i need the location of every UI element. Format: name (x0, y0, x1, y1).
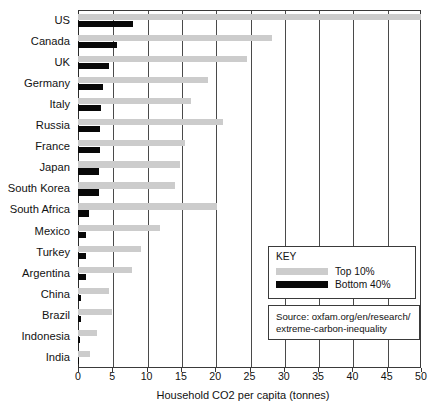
source-line-2: extreme-carbon-inequality (276, 323, 413, 335)
x-tick-mark-45 (387, 368, 388, 372)
category-label-south-africa: South Africa (10, 204, 70, 215)
x-tick-mark-40 (352, 368, 353, 372)
bar-bottom40-italy (78, 105, 101, 111)
category-label-indonesia: Indonesia (21, 331, 70, 342)
category-label-south-korea: South Korea (8, 183, 70, 194)
co2-inequality-bar-chart: USCanadaUKGermanyItalyRussiaFranceJapanS… (0, 0, 434, 412)
x-tick-mark-25 (250, 368, 251, 372)
bar-bottom40-south-africa (78, 210, 89, 216)
category-label-india: India (46, 352, 70, 363)
category-label-canada: Canada (31, 36, 70, 47)
bar-bottom40-france (78, 147, 100, 153)
category-label-france: France (35, 141, 70, 152)
bar-top10-south-korea (78, 182, 175, 188)
category-label-japan: Japan (40, 162, 70, 173)
bar-bottom40-us (78, 21, 133, 27)
bar-bottom40-india (78, 358, 79, 364)
category-label-mexico: Mexico (35, 226, 70, 237)
legend-swatch-top10 (276, 268, 328, 275)
source-line-1: Source: oxfam.org/en/research/ (276, 311, 413, 323)
bar-top10-italy (78, 98, 191, 104)
bar-bottom40-turkey (78, 253, 86, 259)
bar-top10-russia (78, 119, 223, 125)
category-label-us: US (54, 15, 70, 26)
bar-bottom40-argentina (78, 274, 86, 280)
bar-top10-brazil (78, 309, 112, 315)
bar-bottom40-mexico (78, 232, 86, 238)
bar-top10-uk (78, 56, 247, 62)
legend-label-bottom40: Bottom 40% (335, 279, 391, 290)
source-annotation: Source: oxfam.org/en/research/ extreme-c… (268, 305, 420, 340)
bar-bottom40-brazil (78, 316, 81, 322)
x-axis-title-text: Household CO2 per capita (tonnes) (156, 389, 329, 401)
category-label-brazil: Brazil (42, 310, 70, 321)
bar-bottom40-canada (78, 42, 117, 48)
bar-top10-turkey (78, 246, 141, 252)
bar-bottom40-germany (78, 84, 103, 90)
x-tick-mark-15 (181, 368, 182, 372)
x-axis-title: Household CO2 per capita (tonnes) (0, 389, 434, 401)
bar-top10-us (78, 14, 421, 20)
x-tick-mark-10 (147, 368, 148, 372)
bar-top10-france (78, 140, 185, 146)
category-label-uk: UK (54, 57, 70, 68)
category-label-china: China (41, 289, 70, 300)
bar-bottom40-china (78, 295, 81, 301)
legend-swatch-bottom40 (276, 281, 328, 288)
bar-top10-mexico (78, 225, 160, 231)
x-tick-mark-20 (215, 368, 216, 372)
legend-label-top10: Top 10% (335, 266, 375, 277)
legend-item-bottom40: Bottom 40% (276, 279, 408, 290)
legend-item-top10: Top 10% (276, 266, 408, 277)
category-axis-labels: USCanadaUKGermanyItalyRussiaFranceJapanS… (0, 10, 74, 368)
category-label-germany: Germany (24, 78, 70, 89)
category-label-russia: Russia (36, 120, 70, 131)
bar-top10-china (78, 288, 109, 294)
bar-top10-indonesia (78, 330, 97, 336)
bar-top10-argentina (78, 267, 132, 273)
x-tick-mark-0 (78, 368, 79, 372)
x-tick-mark-35 (318, 368, 319, 372)
bar-top10-india (78, 351, 90, 357)
category-label-turkey: Turkey (36, 247, 70, 258)
bar-bottom40-south-korea (78, 189, 99, 195)
bar-bottom40-japan (78, 168, 99, 174)
legend-title: KEY (276, 251, 408, 263)
category-label-italy: Italy (49, 99, 70, 110)
x-tick-mark-30 (284, 368, 285, 372)
bar-top10-germany (78, 77, 208, 83)
bar-top10-south-africa (78, 203, 217, 209)
bar-top10-japan (78, 161, 180, 167)
legend: KEY Top 10% Bottom 40% (268, 246, 416, 299)
x-tick-mark-5 (112, 368, 113, 372)
category-label-argentina: Argentina (22, 268, 70, 279)
bar-bottom40-indonesia (78, 337, 80, 343)
x-axis-tick-labels: 05101520253035404550 (0, 370, 434, 386)
bar-top10-canada (78, 35, 272, 41)
bar-bottom40-uk (78, 63, 109, 69)
x-tick-mark-50 (421, 368, 422, 372)
bar-bottom40-russia (78, 126, 100, 132)
